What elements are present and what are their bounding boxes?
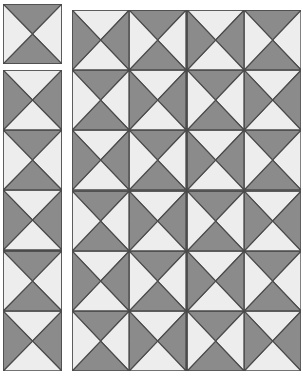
hourglass-triangle-tile-icon — [129, 70, 186, 130]
hourglass-triangle-tile-icon — [129, 251, 186, 311]
hourglass-triangle-tile-icon — [244, 191, 301, 251]
hourglass-triangle-tile-icon — [3, 190, 62, 250]
tile-r0-c1-B[interactable] — [129, 10, 186, 70]
hourglass-triangle-tile-icon — [187, 10, 244, 70]
hourglass-triangle-tile-icon — [3, 4, 62, 64]
single-tile-piece[interactable] — [3, 4, 62, 64]
hourglass-triangle-tile-icon — [244, 10, 301, 70]
tile-r4-c2-A[interactable] — [187, 251, 244, 311]
hourglass-triangle-tile-icon — [244, 311, 301, 371]
tile-r3-c0-B[interactable] — [72, 191, 129, 251]
tile-r2-c0-A[interactable] — [3, 190, 62, 250]
tile-r3-c2-B[interactable] — [187, 191, 244, 251]
main-quilt-board[interactable] — [72, 10, 301, 371]
hourglass-triangle-tile-icon — [187, 311, 244, 371]
tile-r1-c1-A[interactable] — [129, 70, 186, 130]
tile-r0-c0-A[interactable] — [72, 10, 129, 70]
tile-r1-c0-B[interactable] — [3, 130, 62, 190]
tile-r5-c1-A[interactable] — [129, 311, 186, 371]
hourglass-triangle-tile-icon — [187, 130, 244, 190]
hourglass-triangle-tile-icon — [72, 10, 129, 70]
tile-r4-c0-A[interactable] — [72, 251, 129, 311]
tile-r1-c3-A[interactable] — [244, 70, 301, 130]
hourglass-triangle-tile-icon — [72, 191, 129, 251]
tile-r3-c1-A[interactable] — [129, 191, 186, 251]
hourglass-triangle-tile-icon — [72, 70, 129, 130]
tile-r2-c0-A[interactable] — [72, 130, 129, 190]
tile-r1-c2-B[interactable] — [187, 70, 244, 130]
hourglass-triangle-tile-icon — [72, 311, 129, 371]
tile-r0-c0-A[interactable] — [3, 70, 62, 130]
hourglass-triangle-tile-icon — [129, 191, 186, 251]
tile-r0-c3-B[interactable] — [244, 10, 301, 70]
hourglass-triangle-tile-icon — [129, 130, 186, 190]
hourglass-triangle-tile-icon — [187, 251, 244, 311]
tile-r4-c3-B[interactable] — [244, 251, 301, 311]
hourglass-triangle-tile-icon — [129, 311, 186, 371]
hourglass-triangle-tile-icon — [129, 10, 186, 70]
hourglass-triangle-tile-icon — [3, 311, 62, 371]
tile-r1-c0-B[interactable] — [72, 70, 129, 130]
tile-r0-c2-A[interactable] — [187, 10, 244, 70]
tile-r4-c0-A[interactable] — [3, 311, 62, 371]
tile-r2-c1-B[interactable] — [129, 130, 186, 190]
hourglass-triangle-tile-icon — [187, 191, 244, 251]
tile-r2-c3-B[interactable] — [244, 130, 301, 190]
tile-r3-c0-B[interactable] — [3, 251, 62, 311]
hourglass-triangle-tile-icon — [3, 70, 62, 130]
hourglass-triangle-tile-icon — [244, 70, 301, 130]
hourglass-triangle-tile-icon — [3, 130, 62, 190]
hourglass-triangle-tile-icon — [72, 130, 129, 190]
tile-r5-c3-A[interactable] — [244, 311, 301, 371]
tile-r4-c1-B[interactable] — [129, 251, 186, 311]
tile-r0-c0-B[interactable] — [3, 4, 62, 64]
hourglass-triangle-tile-icon — [3, 251, 62, 311]
hourglass-triangle-tile-icon — [187, 70, 244, 130]
hourglass-triangle-tile-icon — [72, 251, 129, 311]
tile-r3-c3-A[interactable] — [244, 191, 301, 251]
tile-r5-c0-B[interactable] — [72, 311, 129, 371]
tile-r2-c2-A[interactable] — [187, 130, 244, 190]
tile-r5-c2-B[interactable] — [187, 311, 244, 371]
hourglass-triangle-tile-icon — [244, 130, 301, 190]
column-strip-piece[interactable] — [3, 70, 62, 371]
hourglass-triangle-tile-icon — [244, 251, 301, 311]
